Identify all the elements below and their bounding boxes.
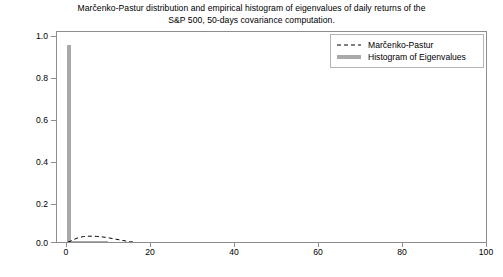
- x-tick-mark-0: [66, 243, 67, 247]
- x-tick-label-100: 100: [466, 247, 503, 257]
- legend: Marčenko-Pastur Histogram of Eigenvalues: [330, 34, 484, 68]
- x-tick-label-60: 60: [298, 247, 338, 257]
- x-tick-mark-80: [402, 243, 403, 247]
- legend-item-marcenko-pastur: Marčenko-Pastur: [336, 39, 477, 51]
- legend-label-marcenko-pastur: Marčenko-Pastur: [368, 40, 433, 50]
- x-tick-label-20: 20: [130, 247, 170, 257]
- chart-title: Marčenko-Pastur distribution and empiric…: [0, 3, 503, 26]
- y-tick-label-0.0: 0.0: [14, 238, 48, 248]
- y-tick-label-1.0: 1.0: [14, 31, 48, 41]
- thick-solid-line-icon: [336, 52, 362, 62]
- marcenko-pastur-curve: [68, 236, 133, 242]
- y-tick-label-0.6: 0.6: [14, 115, 48, 125]
- chart-figure: Marčenko-Pastur distribution and empiric…: [0, 0, 503, 277]
- x-tick-mark-100: [486, 243, 487, 247]
- x-tick-label-40: 40: [214, 247, 254, 257]
- x-tick-mark-60: [318, 243, 319, 247]
- y-tick-label-0.4: 0.4: [14, 157, 48, 167]
- x-tick-mark-40: [234, 243, 235, 247]
- y-tick-label-0.8: 0.8: [14, 73, 48, 83]
- legend-label-histogram: Histogram of Eigenvalues: [368, 52, 466, 62]
- x-tick-label-0: 0: [46, 247, 86, 257]
- x-tick-label-80: 80: [382, 247, 422, 257]
- y-tick-label-0.2: 0.2: [14, 199, 48, 209]
- legend-item-histogram: Histogram of Eigenvalues: [336, 51, 477, 63]
- x-tick-mark-20: [150, 243, 151, 247]
- dashed-line-icon: [336, 40, 362, 50]
